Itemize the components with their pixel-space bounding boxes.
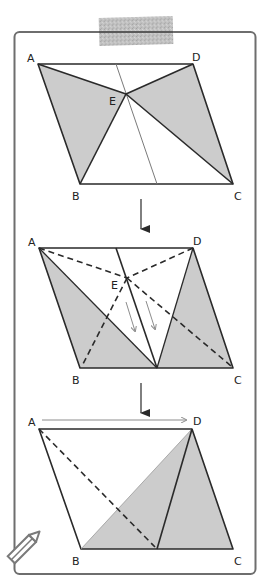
label-a: A (27, 52, 35, 65)
label-d: D (193, 415, 201, 428)
label-c: C (234, 374, 242, 387)
label-c: C (234, 190, 242, 203)
label-a: A (28, 416, 36, 429)
label-d: D (193, 235, 201, 248)
label-a: A (28, 236, 36, 249)
label-d: D (192, 51, 200, 64)
geometry-diagram: A D E B C A D E B C A D B (0, 0, 270, 588)
label-c: C (234, 555, 242, 568)
label-b: B (72, 190, 80, 203)
label-b: B (72, 555, 80, 568)
label-e: E (111, 279, 118, 292)
label-b: B (72, 374, 80, 387)
label-e: E (109, 95, 116, 108)
